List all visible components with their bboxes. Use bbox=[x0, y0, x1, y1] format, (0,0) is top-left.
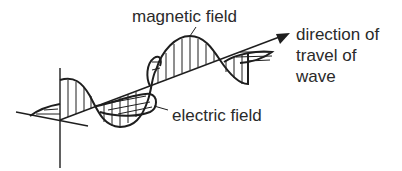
electric-field-label: electric field bbox=[172, 106, 262, 125]
electric-field-leader bbox=[154, 106, 168, 110]
direction-label-line3: wave bbox=[295, 67, 336, 86]
magnetic-field-label: magnetic field bbox=[132, 7, 237, 26]
direction-arrowhead-icon bbox=[276, 33, 290, 44]
electric-field-hatching bbox=[36, 52, 272, 114]
direction-label-line2: travel of bbox=[296, 46, 357, 65]
magnetic-field-leader bbox=[190, 27, 196, 36]
em-wave-diagram: magnetic field electric field direction … bbox=[0, 0, 402, 171]
direction-label-line1: direction of bbox=[296, 25, 379, 44]
